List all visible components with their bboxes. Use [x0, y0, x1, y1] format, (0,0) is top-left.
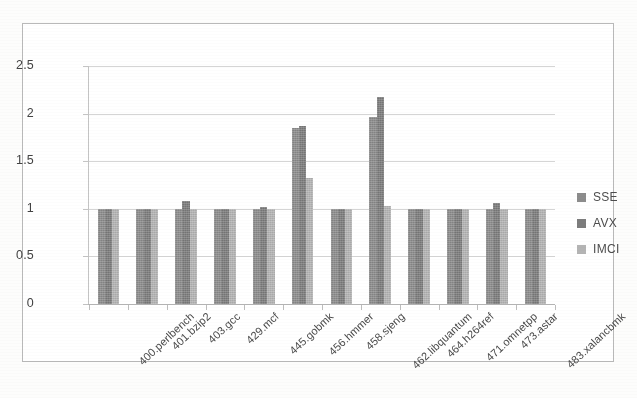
- bar-cluster: [98, 66, 120, 304]
- bar: [112, 209, 119, 304]
- bar: [454, 209, 461, 304]
- bar-cluster: [331, 66, 353, 304]
- bar: [423, 209, 430, 304]
- bar: [229, 209, 236, 304]
- bar: [151, 209, 158, 304]
- bar-cluster: [486, 66, 508, 304]
- bar-cluster: [447, 66, 469, 304]
- bar: [447, 209, 454, 304]
- legend-item[interactable]: IMCI: [577, 236, 633, 262]
- y-axis-tick-label: 2.5: [0, 58, 34, 72]
- bar: [214, 209, 221, 304]
- bar: [408, 209, 415, 304]
- legend-item[interactable]: SSE: [577, 184, 633, 210]
- bar: [369, 117, 376, 304]
- x-axis-tick-label: 403.gcc: [205, 310, 242, 346]
- bar-cluster: [214, 66, 236, 304]
- bar: [345, 209, 352, 304]
- bar-cluster: [408, 66, 430, 304]
- legend-swatch-sse: [577, 193, 586, 202]
- bar: [221, 209, 228, 304]
- bar: [338, 209, 345, 304]
- bar: [136, 209, 143, 304]
- y-axis-tick-label: 1: [0, 201, 34, 215]
- bar: [292, 128, 299, 304]
- x-axis-tick: [555, 305, 556, 310]
- y-axis-tick-label: 0.5: [0, 248, 34, 262]
- legend-item[interactable]: AVX: [577, 210, 633, 236]
- y-axis-tick-label: 1.5: [0, 153, 34, 167]
- y-axis-tick-label: 0: [0, 296, 34, 310]
- bar: [98, 209, 105, 304]
- bar-cluster: [136, 66, 158, 304]
- bar: [190, 209, 197, 304]
- bar: [260, 207, 267, 304]
- bar: [415, 209, 422, 304]
- bar: [299, 126, 306, 304]
- legend-item-label: SSE: [593, 190, 618, 204]
- bar: [182, 201, 189, 304]
- legend-swatch-imci: [577, 245, 586, 254]
- y-axis-tick-label: 2: [0, 106, 34, 120]
- bar-cluster: [253, 66, 275, 304]
- bar-cluster: [525, 66, 547, 304]
- bar: [175, 209, 182, 304]
- bar: [462, 209, 469, 304]
- bar: [493, 203, 500, 304]
- bar-cluster: [292, 66, 314, 304]
- bar: [306, 178, 313, 304]
- bar: [500, 209, 507, 304]
- legend-item-label: IMCI: [593, 242, 620, 256]
- legend-swatch-avx: [577, 219, 586, 228]
- bar: [267, 209, 274, 304]
- bar-cluster: [369, 66, 391, 304]
- x-axis-tick-label: 483.xalancbmk: [564, 310, 627, 370]
- bar-cluster: [175, 66, 197, 304]
- chart-page: 00.511.522.5 400.perlbench401.bzip2403.g…: [0, 0, 637, 398]
- x-axis-tick-label: 429.mcf: [244, 310, 281, 346]
- bar: [532, 209, 539, 304]
- plot-area: [89, 66, 555, 304]
- bar: [539, 209, 546, 304]
- bar: [331, 209, 338, 304]
- bar: [377, 97, 384, 304]
- x-axis-tick-labels: 400.perlbench401.bzip2403.gcc429.mcf445.…: [89, 310, 555, 390]
- chart-frame: 00.511.522.5 400.perlbench401.bzip2403.g…: [22, 23, 614, 362]
- legend-item-label: AVX: [593, 216, 617, 230]
- bar: [105, 209, 112, 304]
- chart-legend: SSEAVXIMCI: [577, 184, 633, 262]
- bar: [384, 206, 391, 304]
- bar: [525, 209, 532, 304]
- bar: [486, 209, 493, 304]
- bar: [253, 209, 260, 304]
- bar: [144, 209, 151, 304]
